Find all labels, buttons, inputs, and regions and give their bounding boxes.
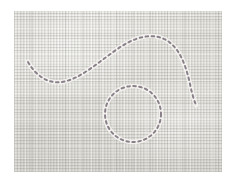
dashed-marking-layer bbox=[14, 11, 222, 172]
image-canvas bbox=[0, 0, 234, 180]
marking-svg bbox=[14, 11, 222, 172]
circle-group bbox=[105, 86, 161, 142]
linen-fabric-swatch bbox=[14, 11, 222, 172]
